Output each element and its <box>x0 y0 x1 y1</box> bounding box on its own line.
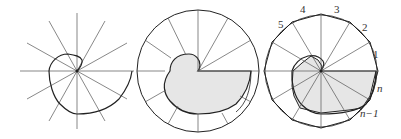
center-point <box>76 70 79 73</box>
panel-spiral-in-circle <box>137 10 259 132</box>
label-2: 2 <box>362 21 368 33</box>
spiral-figure: 1 2 3 4 5 n n−1 <box>0 0 401 139</box>
spiral-curve-1 <box>49 54 132 114</box>
label-4: 4 <box>300 3 306 15</box>
label-n-minus-1: n−1 <box>360 107 378 119</box>
panel-spiral-polygon: 1 2 3 4 5 n n−1 <box>264 3 383 128</box>
label-n: n <box>377 82 383 94</box>
shaded-polygon-spiral <box>292 56 376 113</box>
label-3: 3 <box>334 3 340 15</box>
label-5: 5 <box>278 18 284 30</box>
label-1: 1 <box>373 48 379 60</box>
shaded-spiral-region <box>164 54 251 114</box>
